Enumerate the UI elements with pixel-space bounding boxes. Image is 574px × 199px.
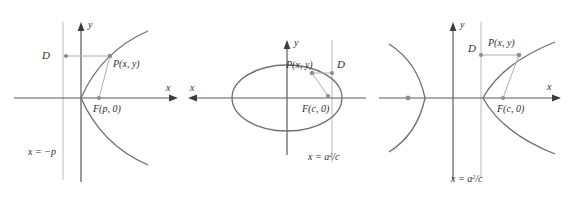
point-d-label: D [336, 58, 345, 70]
x-axis-label: x [189, 82, 195, 93]
directrix-label-suffix: /c [474, 173, 483, 184]
directrix-label-prefix: x = a [307, 151, 329, 162]
conics-figure: D P(x, y) F(p, 0) y x x = −p [0, 0, 574, 199]
point-d-marker [64, 54, 68, 58]
x-axis-arrowhead [169, 95, 178, 102]
y-axis-arrowhead [284, 40, 291, 49]
focus-label: F(p, 0) [92, 103, 121, 115]
point-p-marker [108, 54, 113, 59]
panel-hyperbola: D P(x, y) F(c, 0) y x x = a2/c [375, 0, 574, 199]
panel-parabola: D P(x, y) F(p, 0) y x x = −p [0, 0, 191, 199]
y-axis-arrowhead [450, 22, 457, 31]
point-p-label: P(x, y) [285, 59, 313, 71]
focus-marker [97, 96, 101, 100]
point-d-marker [330, 71, 334, 75]
directrix-label: x = −p [27, 146, 56, 157]
directrix-label: x = a2/c [307, 151, 340, 163]
left-focus-marker [406, 96, 411, 101]
y-axis-label: y [459, 19, 465, 30]
parabola-diagram: D P(x, y) F(p, 0) y x x = −p [0, 0, 191, 199]
y-axis-label: y [293, 37, 299, 48]
y-axis-label: y [87, 19, 93, 30]
x-axis-label: x [165, 82, 171, 93]
focus-marker [501, 96, 505, 100]
panel-ellipse: P(x, y) D F(c, 0) y x x = a2/c [180, 0, 376, 199]
hyperbola-diagram: D P(x, y) F(c, 0) y x x = a2/c [375, 0, 574, 199]
directrix-label: x = a2/c [450, 173, 483, 185]
point-d-marker [479, 53, 483, 57]
point-p-label: P(x, y) [112, 58, 140, 70]
segment-p-to-f [312, 73, 328, 96]
x-axis-arrowhead [552, 95, 561, 102]
directrix-label-prefix: x = a [450, 173, 472, 184]
point-p-marker [517, 53, 522, 58]
point-p-marker [310, 71, 315, 76]
point-d-label: D [41, 49, 50, 61]
focus-label: F(c, 0) [496, 103, 525, 115]
x-axis-label: x [546, 81, 552, 92]
ellipse-diagram: P(x, y) D F(c, 0) y x x = a2/c [180, 0, 376, 199]
focus-marker [326, 94, 330, 98]
directrix-label-suffix: /c [331, 151, 340, 162]
x-axis-arrowhead-left [188, 95, 197, 102]
y-axis-arrowhead [78, 22, 85, 31]
focus-label: F(c, 0) [301, 103, 330, 115]
point-p-label: P(x, y) [487, 37, 515, 49]
segment-p-to-f [503, 55, 519, 98]
point-d-label: D [467, 42, 476, 54]
